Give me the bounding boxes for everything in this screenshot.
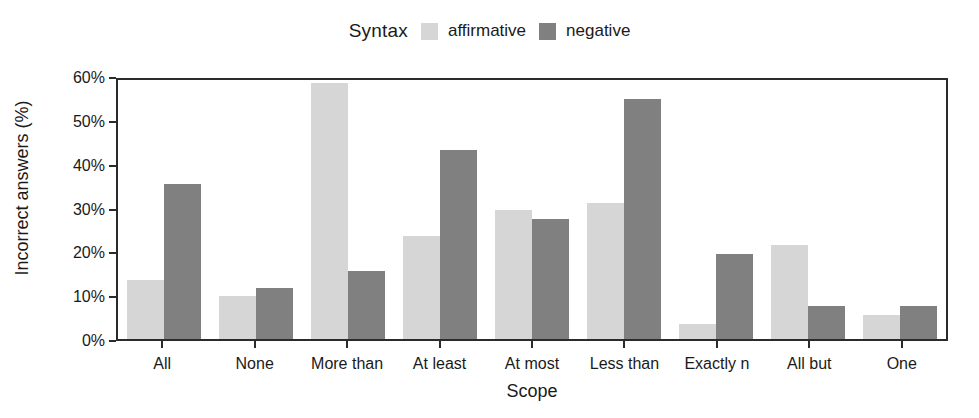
bar-negative-at-most — [532, 219, 569, 339]
y-axis-tick-labels: 60%50%40%30%20%10%0% — [47, 0, 105, 418]
bar-group — [486, 80, 578, 339]
x-tick-mark — [901, 341, 903, 348]
x-tick-mark — [716, 341, 718, 348]
x-tick-mark — [808, 341, 810, 348]
x-tick-one: One — [856, 341, 948, 373]
x-tick-mark — [623, 341, 625, 348]
bar-affirmative-all-but — [771, 245, 808, 339]
legend-label-affirmative: affirmative — [448, 21, 526, 41]
y-tick-mark — [109, 209, 116, 211]
y-tick-mark — [109, 165, 116, 167]
bar-affirmative-at-most — [495, 210, 532, 339]
chart-legend: Syntax affirmative negative — [0, 14, 979, 48]
y-tick-label: 50% — [47, 113, 105, 131]
bar-affirmative-less-than — [587, 203, 624, 339]
bar-group — [394, 80, 486, 339]
y-tick-label: 60% — [47, 69, 105, 87]
bar-affirmative-one — [863, 315, 900, 339]
x-tick-less-than: Less than — [578, 341, 670, 373]
x-axis-tick-labels: AllNoneMore thanAt leastAt mostLess than… — [116, 341, 948, 381]
x-tick-label: Exactly n — [671, 355, 763, 373]
bar-affirmative-exactly-n — [679, 324, 716, 339]
x-tick-all-but: All but — [763, 341, 855, 373]
x-tick-mark — [439, 341, 441, 348]
y-tick-label: 0% — [47, 332, 105, 350]
x-tick-label: None — [208, 355, 300, 373]
bar-affirmative-all — [127, 280, 164, 339]
bar-negative-all-but — [808, 306, 845, 339]
bar-group — [670, 80, 762, 339]
legend-title: Syntax — [349, 20, 408, 42]
bar-group — [210, 80, 302, 339]
x-tick-label: One — [856, 355, 948, 373]
x-tick-exactly-n: Exactly n — [671, 341, 763, 373]
x-tick-at-most: At most — [486, 341, 578, 373]
bar-negative-one — [900, 306, 937, 339]
bar-chart-figure: Syntax affirmative negative Incorrect an… — [0, 0, 979, 418]
plot-panel — [116, 78, 948, 341]
x-tick-at-least: At least — [393, 341, 485, 373]
y-axis-title: Incorrect answers (%) — [12, 38, 38, 338]
bar-group — [118, 80, 210, 339]
y-tick-label: 40% — [47, 157, 105, 175]
x-tick-mark — [531, 341, 533, 348]
x-tick-more-than: More than — [301, 341, 393, 373]
legend-swatch-negative — [539, 23, 556, 40]
x-tick-label: More than — [301, 355, 393, 373]
x-tick-mark — [161, 341, 163, 348]
y-tick-mark — [109, 121, 116, 123]
y-tick-label: 20% — [47, 244, 105, 262]
bar-negative-at-least — [440, 150, 477, 339]
x-tick-all: All — [116, 341, 208, 373]
x-tick-label: At most — [486, 355, 578, 373]
legend-entry-affirmative: affirmative — [421, 21, 526, 41]
x-tick-label: All — [116, 355, 208, 373]
x-axis-title: Scope — [116, 381, 948, 402]
x-tick-label: Less than — [578, 355, 670, 373]
legend-label-negative: negative — [566, 21, 630, 41]
bar-negative-exactly-n — [716, 254, 753, 339]
bar-affirmative-none — [219, 296, 256, 339]
bars-container — [118, 80, 946, 339]
bar-group — [854, 80, 946, 339]
y-tick-mark — [109, 77, 116, 79]
x-tick-mark — [346, 341, 348, 348]
legend-swatch-affirmative — [421, 23, 438, 40]
bar-group — [762, 80, 854, 339]
bar-group — [302, 80, 394, 339]
x-tick-none: None — [208, 341, 300, 373]
y-tick-mark — [109, 296, 116, 298]
y-tick-label: 30% — [47, 201, 105, 219]
bar-negative-less-than — [624, 99, 661, 339]
bar-affirmative-at-least — [403, 236, 440, 339]
x-tick-label: All but — [763, 355, 855, 373]
bar-group — [578, 80, 670, 339]
x-tick-mark — [254, 341, 256, 348]
y-tick-label: 10% — [47, 288, 105, 306]
y-tick-mark — [109, 252, 116, 254]
bar-affirmative-more-than — [311, 83, 348, 339]
bar-negative-all — [164, 184, 201, 339]
bar-negative-more-than — [348, 271, 385, 339]
y-tick-mark — [109, 340, 116, 342]
legend-entry-negative: negative — [539, 21, 630, 41]
bar-negative-none — [256, 288, 293, 339]
x-tick-label: At least — [393, 355, 485, 373]
